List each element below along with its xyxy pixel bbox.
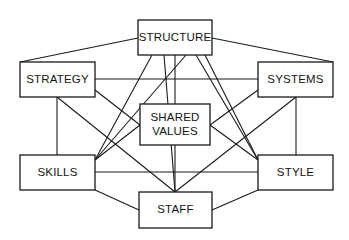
connector-structure-style bbox=[205, 55, 258, 160]
connector-skills-sharedvalues bbox=[95, 125, 140, 160]
node-systems[interactable]: SYSTEMS bbox=[258, 62, 333, 97]
node-label-strategy: STRATEGY bbox=[26, 73, 89, 85]
connector-style-sharedvalues bbox=[210, 125, 258, 160]
node-shared-values[interactable]: SHAREDVALUES bbox=[140, 104, 210, 145]
node-strategy[interactable]: STRATEGY bbox=[20, 62, 95, 97]
connector-staff-style bbox=[212, 190, 258, 210]
node-staff[interactable]: STAFF bbox=[139, 192, 212, 228]
node-label-structure: STRUCTURE bbox=[139, 31, 212, 43]
node-label-shared-values: SHARED bbox=[150, 111, 199, 123]
diagram-canvas: STRUCTURESTRATEGYSYSTEMSSHAREDVALUESSKIL… bbox=[0, 0, 349, 240]
node-label-shared-values: VALUES bbox=[152, 125, 198, 137]
node-label-staff: STAFF bbox=[157, 203, 194, 215]
node-label-skills: SKILLS bbox=[37, 166, 77, 178]
connector-strategy-structure bbox=[20, 38, 138, 62]
connector-structure-systems bbox=[212, 38, 333, 62]
connector-strategy-sharedvalues bbox=[95, 90, 140, 125]
node-skills[interactable]: SKILLS bbox=[20, 155, 95, 190]
node-layer: STRUCTURESTRATEGYSYSTEMSSHAREDVALUESSKIL… bbox=[20, 20, 333, 228]
node-style[interactable]: STYLE bbox=[258, 155, 333, 190]
node-label-style: STYLE bbox=[277, 166, 315, 178]
connector-skills-staff bbox=[95, 190, 139, 210]
node-label-systems: SYSTEMS bbox=[267, 73, 323, 85]
seven-s-diagram: STRUCTURESTRATEGYSYSTEMSSHAREDVALUESSKIL… bbox=[0, 0, 349, 240]
node-structure[interactable]: STRUCTURE bbox=[138, 20, 212, 55]
